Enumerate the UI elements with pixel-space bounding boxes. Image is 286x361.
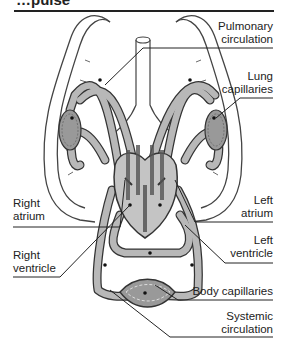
label-right-ventricle: Right ventricle <box>13 249 56 275</box>
label-pulmonary-circulation: Pulmonary circulation <box>218 20 273 46</box>
label-lung-capillaries: Lung capillaries <box>222 70 273 96</box>
lung-capillaries-right <box>205 110 227 150</box>
label-body-capillaries: Body capillaries <box>192 285 273 298</box>
label-right-atrium: Right atrium <box>13 197 45 223</box>
label-left-ventricle: Left ventricle <box>230 234 273 260</box>
label-left-atrium: Left atrium <box>241 194 273 220</box>
circulation-diagram <box>0 0 286 361</box>
label-systemic-circulation: Systemic circulation <box>221 310 273 336</box>
lung-capillaries-left <box>59 110 81 150</box>
